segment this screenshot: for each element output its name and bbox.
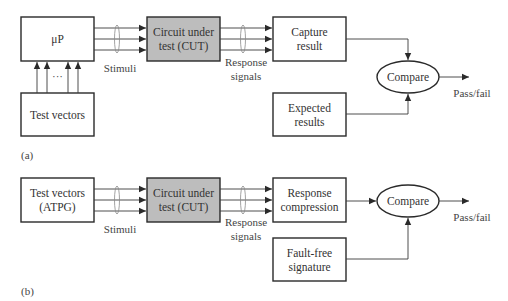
expected-label-line2: results — [294, 116, 325, 128]
response-bus-b: Response signals — [220, 186, 272, 242]
fault-free-signature-block: Fault-free signature — [273, 238, 346, 281]
compression-label-line1: Response — [287, 187, 331, 200]
cut-b-label-line1: Circuit under — [153, 187, 214, 199]
compare-node: Compare — [377, 61, 439, 93]
stimuli-bus-b: Stimuli — [94, 186, 146, 235]
capture-result-block: Capture result — [273, 17, 346, 61]
response-compression-block: Response compression — [273, 178, 346, 222]
stimuli-label-b: Stimuli — [104, 223, 136, 235]
signature-to-compare-arrow — [346, 218, 408, 259]
part-b-caption: (b) — [21, 285, 34, 298]
atpg-label-line2: (ATPG) — [39, 201, 76, 214]
test-vectors-block: Test vectors — [21, 93, 94, 136]
cut-block-b: Circuit under test (CUT) — [147, 178, 220, 222]
signature-label-line1: Fault-free — [287, 247, 332, 259]
atpg-test-vectors-block: Test vectors (ATPG) — [21, 178, 94, 222]
cut-label-line1: Circuit under — [153, 26, 214, 38]
part-a: μP Test vectors ··· Stimuli Circuit unde… — [21, 17, 491, 162]
expected-label-line1: Expected — [288, 102, 331, 115]
capture-label-line1: Capture — [291, 26, 327, 39]
vector-input-arrows: ··· — [37, 62, 78, 93]
test-architecture-diagram: μP Test vectors ··· Stimuli Circuit unde… — [0, 0, 508, 301]
expected-results-block: Expected results — [273, 93, 346, 136]
capture-to-compare-arrow — [346, 39, 408, 60]
response-label-line2: signals — [231, 70, 262, 82]
ellipsis-dots: ··· — [52, 70, 63, 82]
stimuli-bus: Stimuli — [94, 25, 146, 74]
signature-label-line2: signature — [288, 261, 330, 274]
compression-label-line2: compression — [280, 201, 338, 214]
response-b-label-line2: signals — [231, 230, 262, 242]
capture-label-line2: result — [297, 40, 323, 52]
atpg-label-line1: Test vectors — [30, 187, 86, 199]
response-label-line1: Response — [225, 56, 267, 68]
stimuli-label: Stimuli — [104, 62, 136, 74]
expected-to-compare-arrow — [346, 94, 408, 114]
compare-label: Compare — [387, 71, 429, 84]
processor-label: μP — [51, 33, 64, 46]
pass-fail-label: Pass/fail — [453, 87, 490, 99]
part-b: Test vectors (ATPG) Stimuli Circuit unde… — [21, 178, 491, 298]
test-vectors-label: Test vectors — [30, 109, 86, 121]
cut-b-label-line2: test (CUT) — [159, 201, 209, 214]
processor-block: μP — [21, 17, 94, 61]
compare-b-label: Compare — [387, 195, 429, 208]
compare-node-b: Compare — [377, 185, 439, 217]
cut-block: Circuit under test (CUT) — [147, 17, 220, 61]
response-b-label-line1: Response — [225, 216, 267, 228]
part-a-caption: (a) — [21, 149, 34, 162]
cut-label-line2: test (CUT) — [159, 40, 209, 53]
response-bus: Response signals — [220, 25, 272, 82]
pass-fail-label-b: Pass/fail — [453, 211, 490, 223]
